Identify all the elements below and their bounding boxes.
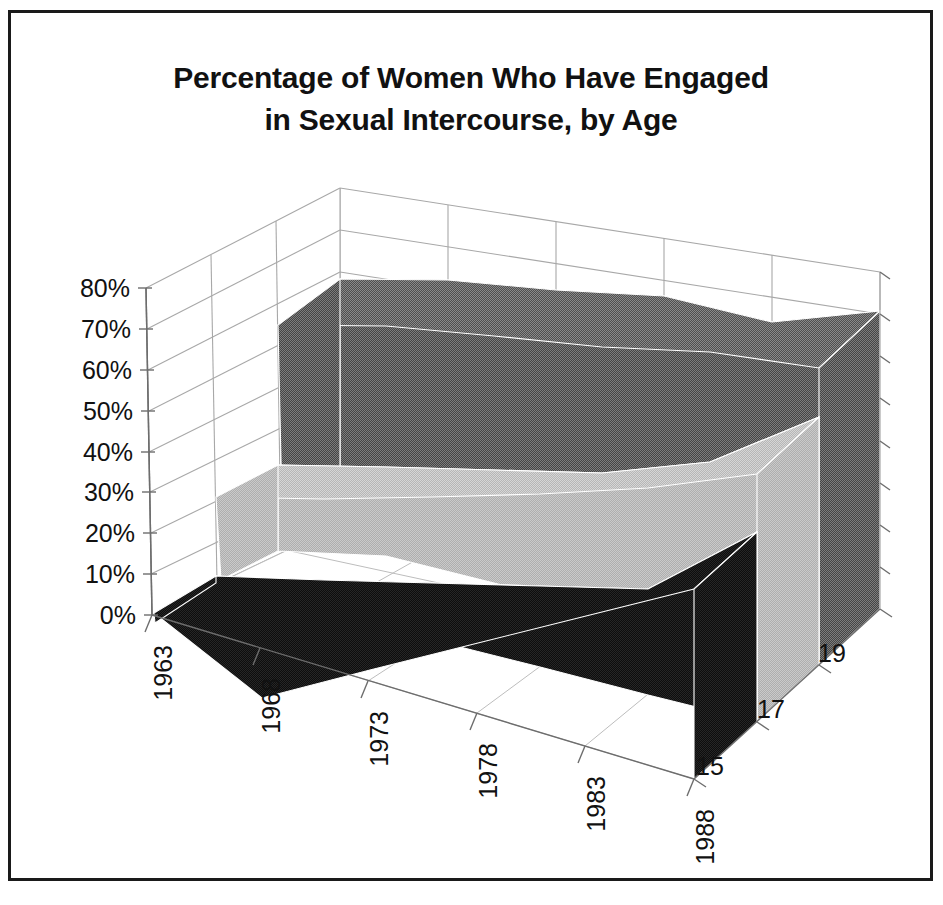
y-tick-label-30: 30%	[84, 478, 134, 506]
y-tick-label-40: 40%	[83, 438, 133, 466]
z-tick-label-19: 19	[818, 639, 846, 667]
chart-figure: Percentage of Women Who Have Engaged in …	[0, 0, 943, 905]
x-tick-label-1988: 1988	[691, 809, 719, 865]
chart-title-line-1: Percentage of Women Who Have Engaged	[173, 61, 769, 94]
chart-title-line-2: in Sexual Intercourse, by Age	[264, 103, 677, 136]
y-tick-label-80: 80%	[80, 274, 130, 302]
y-tick-label-0: 0%	[100, 601, 136, 629]
y-tick-label-10: 10%	[85, 560, 135, 588]
y-tick-label-20: 20%	[85, 519, 135, 547]
z-tick-label-17: 17	[757, 695, 785, 723]
y-tick-label-70: 70%	[81, 315, 131, 343]
x-tick-label-1973: 1973	[365, 711, 393, 767]
y-tick-label-60: 60%	[82, 356, 132, 384]
y-tick-label-50: 50%	[83, 397, 133, 425]
x-tick-label-1968: 1968	[257, 678, 285, 734]
z-tick-label-15: 15	[696, 752, 724, 780]
x-tick-label-1978: 1978	[474, 743, 502, 799]
x-tick-label-1963: 1963	[149, 645, 177, 701]
x-tick-label-1983: 1983	[582, 776, 610, 832]
